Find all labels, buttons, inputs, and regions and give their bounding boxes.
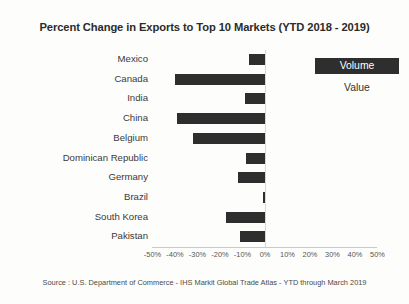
x-axis-tick-label: 10%: [280, 250, 295, 259]
chart-title: Percent Change in Exports to Top 10 Mark…: [0, 21, 409, 33]
y-axis-label: Canada: [12, 73, 148, 84]
x-axis-tick-label: -40%: [166, 250, 183, 259]
x-axis-line: [152, 247, 377, 248]
y-axis-label: Brazil: [12, 191, 148, 202]
y-axis-label: India: [12, 92, 148, 103]
legend-item-value[interactable]: Value: [315, 80, 399, 96]
x-axis-tick-labels: -50%-40%-30%-20%-10%0%10%20%30%40%50%: [152, 250, 377, 264]
x-axis-tick-label: -30%: [189, 250, 206, 259]
y-axis-label: Pakistan: [12, 230, 148, 241]
y-axis-label: Germany: [12, 171, 148, 182]
y-axis-label: South Korea: [12, 211, 148, 222]
x-axis-tick-label: -10%: [234, 250, 251, 259]
x-axis-tick-label: -20%: [211, 250, 228, 259]
x-axis-tick-label: -50%: [144, 250, 161, 259]
y-axis-category-labels: MexicoCanadaIndiaChinaBelgiumDominican R…: [12, 50, 148, 247]
bar: [177, 113, 265, 124]
x-axis-tick-label: 20%: [303, 250, 318, 259]
chart-legend: VolumeValue: [315, 58, 399, 96]
bar: [249, 54, 265, 65]
bar: [226, 212, 265, 223]
bar: [193, 133, 265, 144]
x-axis-tick-label: 50%: [370, 250, 385, 259]
x-axis-tick-label: 0%: [260, 250, 271, 259]
zero-axis-line: [265, 50, 266, 247]
source-note: Source : U.S. Department of Commerce - I…: [0, 278, 409, 287]
y-axis-label: Belgium: [12, 132, 148, 143]
bar: [245, 93, 265, 104]
legend-item-volume[interactable]: Volume: [315, 58, 399, 74]
bar: [246, 153, 265, 164]
x-axis-tick-label: 30%: [325, 250, 340, 259]
y-axis-label: Mexico: [12, 53, 148, 64]
y-axis-label: China: [12, 112, 148, 123]
bar: [240, 231, 265, 242]
bar: [238, 172, 265, 183]
chart-figure: Percent Change in Exports to Top 10 Mark…: [0, 0, 409, 304]
y-axis-label: Dominican Republic: [12, 152, 148, 163]
bar: [175, 74, 265, 85]
x-axis-tick-label: 40%: [348, 250, 363, 259]
